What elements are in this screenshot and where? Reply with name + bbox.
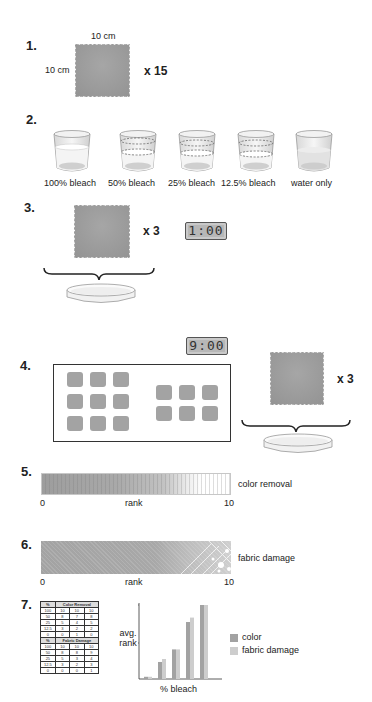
bar-color xyxy=(172,649,176,679)
legend-swatch-color xyxy=(230,634,238,642)
dried-swatch xyxy=(113,394,129,409)
cup-label-50: 50% bleach xyxy=(108,178,155,188)
dried-swatch xyxy=(179,385,195,400)
bleach-cups-illustration xyxy=(0,128,372,176)
color-removal-scale xyxy=(41,473,231,495)
swatch-multiplier: x 15 xyxy=(144,64,167,78)
dried-swatch xyxy=(67,394,83,409)
bar-fabric-damage xyxy=(204,605,208,679)
step-6-number: 6. xyxy=(21,537,32,552)
legend-item-color: color xyxy=(230,632,262,642)
y-axis-label: avg.rank xyxy=(116,628,140,648)
swatch-width-label: 10 cm xyxy=(91,31,116,41)
dried-swatch xyxy=(156,385,172,400)
bar-color xyxy=(186,622,190,679)
dried-swatch xyxy=(113,416,129,431)
petri-dish-icon-step4 xyxy=(261,432,335,456)
swatch-multiplier-step3: x 3 xyxy=(143,224,160,238)
dried-swatch xyxy=(90,372,106,387)
cup-25-bleach-icon xyxy=(179,131,215,172)
fabric-damage-texture-icon xyxy=(181,541,231,574)
scale-mid-5: rank xyxy=(125,498,143,508)
bar-color xyxy=(158,662,162,679)
cell: 0 xyxy=(55,668,69,674)
bar-fabric-damage xyxy=(148,677,152,679)
scale-mid-6: rank xyxy=(125,577,143,587)
cup-label-25: 25% bleach xyxy=(168,178,215,188)
step-7-number: 7. xyxy=(21,597,32,612)
cup-50-bleach-icon xyxy=(120,131,156,172)
dried-swatch xyxy=(67,416,83,431)
dried-swatch xyxy=(67,372,83,387)
cup-label-12-5: 12.5% bleach xyxy=(221,178,276,188)
scale-max-6: 10 xyxy=(224,577,234,587)
scale-min-5: 0 xyxy=(40,498,45,508)
timer-9-min: 9:00 xyxy=(186,337,228,355)
bar-chart-plot xyxy=(138,601,222,681)
dried-swatch xyxy=(202,406,218,421)
bar-color xyxy=(200,605,204,679)
results-table: % Color Removal 100101010 50878 25545 12… xyxy=(40,601,99,674)
cell: 1 xyxy=(84,668,98,674)
bar-color xyxy=(144,677,148,679)
dried-swatch xyxy=(90,416,106,431)
avg-rank-bar-chart xyxy=(138,601,222,681)
bar-fabric-damage xyxy=(162,659,166,679)
legend-item-damage: fabric damage xyxy=(230,645,299,655)
cup-label-water: water only xyxy=(291,178,332,188)
step-1-number: 1. xyxy=(26,38,37,53)
fabric-swatch-step4 xyxy=(270,352,324,405)
swatch-height-label: 10 cm xyxy=(45,65,70,75)
fabric-swatch xyxy=(75,44,130,97)
cup-100-bleach-icon xyxy=(54,131,90,172)
legend-label-color: color xyxy=(242,632,262,642)
petri-dish-icon xyxy=(64,282,138,306)
bar-fabric-damage xyxy=(176,649,180,679)
color-removal-label: color removal xyxy=(238,479,292,489)
fabric-swatch-step3 xyxy=(74,205,130,258)
x-axis-label: % bleach xyxy=(160,684,197,694)
dried-swatch xyxy=(202,385,218,400)
legend-swatch-damage xyxy=(230,647,238,655)
dried-swatch xyxy=(90,394,106,409)
step-3-number: 3. xyxy=(24,200,35,215)
brace-icon xyxy=(42,266,156,282)
legend-label-damage: fabric damage xyxy=(242,645,299,655)
step-5-number: 5. xyxy=(21,464,32,479)
step-2-number: 2. xyxy=(26,112,37,127)
cup-12-5-bleach-icon xyxy=(238,131,274,172)
fabric-damage-scale xyxy=(41,541,231,574)
scale-min-6: 0 xyxy=(40,577,45,587)
scale-max-5: 10 xyxy=(224,498,234,508)
dried-swatch xyxy=(179,406,195,421)
swatch-multiplier-step4: x 3 xyxy=(337,372,354,386)
step-4-number: 4. xyxy=(20,358,31,373)
dried-swatch xyxy=(156,406,172,421)
cup-label-100: 100% bleach xyxy=(44,178,96,188)
cup-water-only-icon xyxy=(296,131,332,172)
dried-swatch xyxy=(113,372,129,387)
cell: 0 xyxy=(41,668,56,674)
bar-fabric-damage xyxy=(190,618,194,679)
table-row: 0001 xyxy=(41,668,99,674)
results-data-table: % Color Removal 100101010 50878 25545 12… xyxy=(40,601,99,674)
timer-1-min: 1:00 xyxy=(185,222,227,240)
fabric-damage-label: fabric damage xyxy=(238,553,295,563)
drying-tray xyxy=(53,364,231,442)
cell: 0 xyxy=(70,668,84,674)
